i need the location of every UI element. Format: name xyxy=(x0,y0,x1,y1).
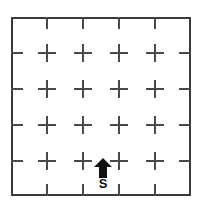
grid-intersection-horizontal xyxy=(146,52,164,54)
grid-intersection xyxy=(38,80,56,98)
grid-intersection-horizontal xyxy=(146,88,164,90)
start-label: S xyxy=(92,177,114,191)
diagram-canvas: S xyxy=(0,0,203,212)
grid-intersection xyxy=(74,80,92,98)
grid-intersection xyxy=(38,116,56,134)
up-arrow-icon xyxy=(94,158,112,178)
grid-intersection-horizontal xyxy=(146,124,164,126)
grid-intersection xyxy=(110,44,128,62)
grid-intersection-horizontal xyxy=(38,124,56,126)
grid-intersection xyxy=(74,152,92,170)
grid-intersection xyxy=(146,116,164,134)
grid-intersection xyxy=(110,152,128,170)
grid-intersection-horizontal xyxy=(74,52,92,54)
grid-intersection-horizontal xyxy=(146,160,164,162)
grid-intersection xyxy=(74,44,92,62)
grid-intersection-horizontal xyxy=(110,160,128,162)
grid-tick-top-2 xyxy=(82,17,84,29)
grid-intersection xyxy=(74,116,92,134)
grid-intersection xyxy=(146,152,164,170)
grid-tick-bottom-2 xyxy=(82,184,84,196)
grid-tick-right-2 xyxy=(179,88,191,90)
grid-tick-bottom-3 xyxy=(118,184,120,196)
grid-tick-right-1 xyxy=(179,52,191,54)
grid-tick-left-1 xyxy=(11,52,23,54)
grid-intersection-horizontal xyxy=(110,52,128,54)
grid-intersection xyxy=(38,152,56,170)
grid-intersection-horizontal xyxy=(74,88,92,90)
grid-tick-right-3 xyxy=(179,124,191,126)
grid-intersection-horizontal xyxy=(74,160,92,162)
grid-intersection xyxy=(110,116,128,134)
grid-intersection-horizontal xyxy=(38,88,56,90)
grid-intersection-horizontal xyxy=(110,88,128,90)
grid-tick-bottom-4 xyxy=(154,184,156,196)
grid-tick-bottom-1 xyxy=(46,184,48,196)
grid-tick-left-3 xyxy=(11,124,23,126)
grid-tick-top-3 xyxy=(118,17,120,29)
grid-tick-right-4 xyxy=(179,160,191,162)
grid-tick-left-2 xyxy=(11,88,23,90)
grid-tick-top-1 xyxy=(46,17,48,29)
grid-intersection xyxy=(38,44,56,62)
grid-tick-left-4 xyxy=(11,160,23,162)
grid-intersection xyxy=(146,44,164,62)
grid-intersection-horizontal xyxy=(38,160,56,162)
grid-tick-top-4 xyxy=(154,17,156,29)
grid-intersection xyxy=(110,80,128,98)
grid-intersection-horizontal xyxy=(110,124,128,126)
grid-intersection-horizontal xyxy=(74,124,92,126)
grid-intersection-horizontal xyxy=(38,52,56,54)
grid-intersection xyxy=(146,80,164,98)
